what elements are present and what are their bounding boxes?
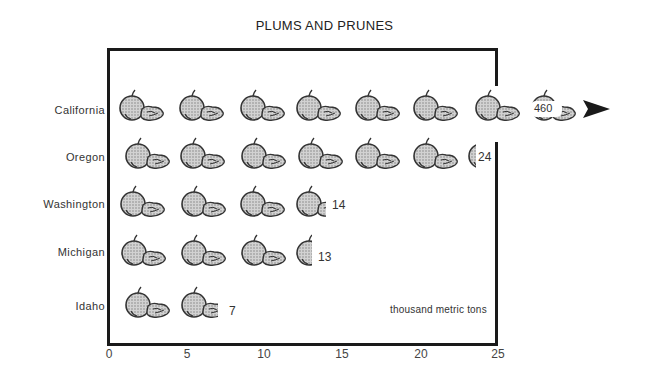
row-oregon-symbols xyxy=(126,138,512,168)
row-idaho-symbols xyxy=(126,287,225,317)
x-tick-0: 0 xyxy=(106,347,113,361)
x-tick-10: 10 xyxy=(257,347,270,361)
row-michigan-symbols xyxy=(122,235,340,265)
unit-label: thousand metric tons xyxy=(390,304,487,315)
value-label-washington: 14 xyxy=(332,198,345,212)
x-tick-25: 25 xyxy=(491,347,504,361)
x-tick-20: 20 xyxy=(414,347,427,361)
x-tick-15: 15 xyxy=(335,347,348,361)
row-washington-symbols xyxy=(121,186,340,216)
value-label-california: 460 xyxy=(534,102,552,114)
x-tick-5: 5 xyxy=(184,347,191,361)
value-label-michigan: 13 xyxy=(318,250,331,264)
value-label-idaho: 7 xyxy=(229,304,236,318)
pictograph-layer xyxy=(0,0,649,390)
value-label-oregon: 24 xyxy=(478,150,491,164)
